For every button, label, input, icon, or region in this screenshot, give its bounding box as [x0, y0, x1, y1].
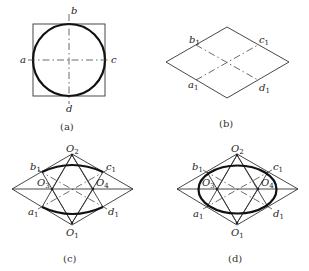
label-d1: d1	[259, 82, 270, 95]
panel-b: b1 c1 a1 d1 (b)	[166, 27, 289, 129]
label-d: d	[66, 103, 72, 114]
point-O3	[51, 188, 54, 191]
label-b: b	[71, 5, 77, 16]
point-O2	[236, 154, 239, 157]
panel-a: b a c d (a)	[20, 5, 117, 132]
label-b1: b1	[189, 34, 200, 47]
label-O3: O3	[202, 177, 215, 190]
label-c: c	[111, 54, 117, 65]
construction-line	[52, 189, 72, 223]
four-center-ellipse-figure: b a c d (a) b1 c1 a1 d1 (b)	[0, 0, 309, 271]
caption-a: (a)	[60, 121, 74, 132]
point-O1	[236, 222, 239, 225]
panel-d: O2 O1 O3 O4 b1 c1 a1 d1 (d)	[177, 143, 298, 264]
point-O2	[71, 154, 74, 157]
point-O1	[71, 222, 74, 225]
caption-c: (c)	[63, 253, 77, 264]
label-O1: O1	[231, 227, 244, 240]
point-O3	[216, 188, 219, 191]
label-O3: O3	[37, 177, 50, 190]
rhombus	[166, 27, 289, 98]
construction-line	[237, 189, 258, 223]
construction-line	[72, 189, 93, 223]
panel-c: O2 O1 O3 O4 b1 c1 a1 d1 (c)	[12, 143, 133, 264]
point-O4	[257, 188, 260, 191]
label-O4: O4	[96, 177, 109, 190]
label-c1: c1	[273, 161, 283, 174]
label-b1: b1	[30, 161, 41, 174]
construction-line	[217, 189, 237, 223]
caption-b: (b)	[219, 118, 233, 129]
label-c1: c1	[259, 34, 269, 47]
label-d1: d1	[108, 206, 119, 219]
label-a1: a1	[28, 206, 38, 219]
label-b1: b1	[192, 161, 203, 174]
label-d1: d1	[273, 208, 284, 221]
label-c1: c1	[106, 161, 116, 174]
point-O4	[92, 188, 95, 191]
label-a1: a1	[188, 79, 198, 92]
label-a: a	[20, 54, 26, 65]
label-a1: a1	[193, 208, 203, 221]
caption-d: (d)	[228, 253, 242, 264]
label-O1: O1	[66, 227, 79, 240]
